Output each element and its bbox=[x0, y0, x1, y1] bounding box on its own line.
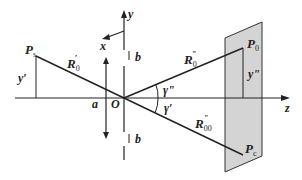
label-y-axis: y bbox=[126, 7, 134, 21]
projection-diagram: y x z b b a O Ps y′ R0′ P0 y" R0" Pc R00… bbox=[0, 0, 302, 180]
segment-R0-prime bbox=[36, 56, 124, 98]
label-R00-dblprime: R00" bbox=[194, 114, 212, 133]
label-R0-prime: R0′ bbox=[66, 53, 80, 73]
label-x-axis: x bbox=[99, 39, 106, 53]
label-b-top: b bbox=[135, 50, 141, 64]
angle-gamma-dblprime-arc bbox=[156, 85, 158, 98]
y-axis-arrow-icon bbox=[121, 10, 127, 18]
label-y-dblprime: y" bbox=[246, 67, 260, 81]
a-arrow-up-icon bbox=[103, 57, 109, 64]
label-gamma-prime: γ′ bbox=[164, 101, 172, 115]
label-O: O bbox=[111, 97, 120, 111]
label-a: a bbox=[92, 97, 98, 111]
label-z-axis: z bbox=[284, 101, 290, 115]
x-axis bbox=[108, 31, 124, 37]
a-arrow-down-icon bbox=[103, 132, 109, 139]
angle-gamma-prime-arc bbox=[155, 98, 158, 113]
label-y-prime: y′ bbox=[16, 71, 27, 85]
label-R0-dblprime: R0" bbox=[183, 50, 197, 69]
label-b-bottom: b bbox=[135, 132, 141, 146]
label-Ps: Ps bbox=[25, 42, 36, 59]
label-gamma-dblprime: γ" bbox=[163, 83, 175, 97]
